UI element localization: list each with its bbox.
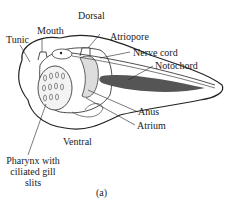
label-dorsal: Dorsal (78, 10, 105, 21)
label-anus: Anus (138, 106, 159, 117)
label-tunic: Tunic (6, 34, 29, 45)
label-notochord: Notochord (155, 60, 198, 71)
label-pharynx: Pharynx with ciliated gill slits (2, 155, 64, 188)
label-nerve-cord: Nerve cord (133, 47, 178, 58)
label-mouth: Mouth (37, 25, 64, 36)
figure-caption: (a) (96, 187, 107, 198)
tunicate-diagram: Dorsal Mouth Tunic Atriopore Nerve cord … (0, 0, 233, 201)
label-ventral: Ventral (63, 136, 92, 147)
label-atriopore: Atriopore (110, 31, 149, 42)
label-atrium: Atrium (137, 120, 166, 131)
